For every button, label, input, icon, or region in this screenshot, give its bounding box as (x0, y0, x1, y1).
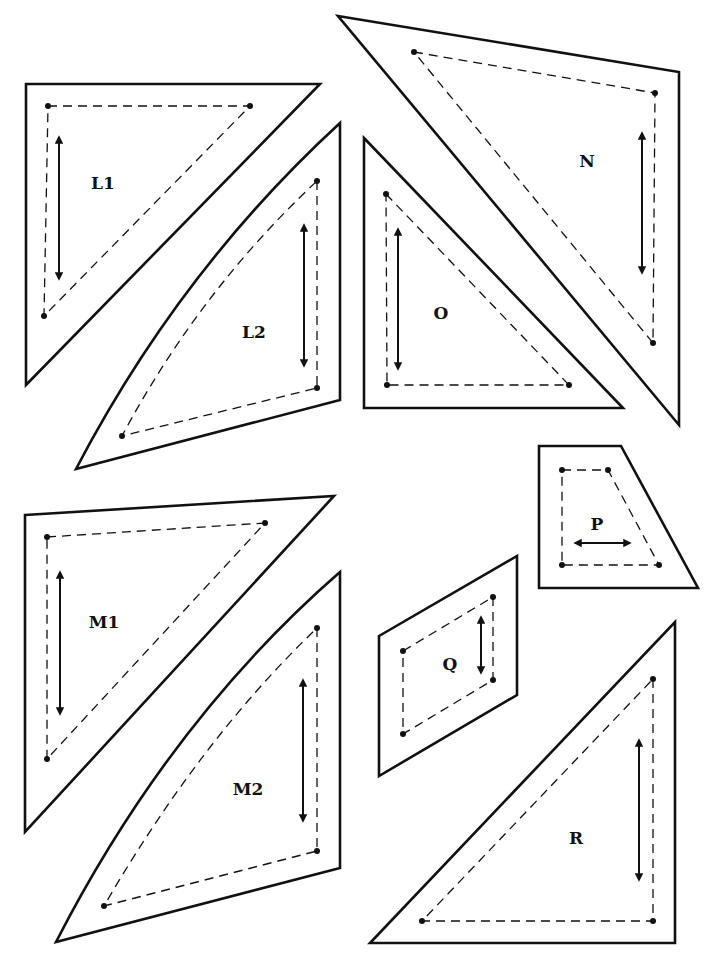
pattern-diagram: L1L2NOPQM1M2R (0, 0, 716, 960)
pattern-sheet: L1L2NOPQM1M2R (0, 0, 716, 960)
seam-corner-dot (41, 313, 47, 319)
piece-label: L2 (242, 322, 266, 342)
seam-corner-dot (559, 467, 565, 473)
seam-corner-dot (400, 648, 406, 654)
seam-corner-dot (490, 594, 496, 600)
seam-corner-dot (44, 534, 50, 540)
seam-corner-dot (652, 90, 658, 96)
pattern-piece-q[interactable]: Q (379, 556, 517, 776)
seam-corner-dot (314, 178, 320, 184)
seam-corner-dot (383, 191, 389, 197)
seam-corner-dot (314, 385, 320, 391)
seam-corner-dot (650, 918, 656, 924)
piece-label: N (579, 151, 595, 171)
seam-corner-dot (247, 103, 253, 109)
seam-corner-dot (44, 756, 50, 762)
piece-label: P (591, 514, 604, 534)
seam-corner-dot (314, 848, 320, 854)
seam-corner-dot (419, 918, 425, 924)
pattern-pieces: L1L2NOPQM1M2R (25, 16, 698, 943)
seam-corner-dot (650, 340, 656, 346)
piece-label: Q (443, 654, 458, 674)
seam-corner-dot (400, 731, 406, 737)
seam-corner-dot (605, 467, 611, 473)
seam-corner-dot (384, 382, 390, 388)
seam-corner-dot (650, 676, 656, 682)
seam-corner-dot (101, 903, 107, 909)
seam-corner-dot (566, 382, 572, 388)
seam-corner-dot (119, 433, 125, 439)
piece-label: M1 (89, 612, 120, 632)
seam-corner-dot (45, 103, 51, 109)
piece-label: M2 (233, 779, 264, 799)
seam-corner-dot (559, 562, 565, 568)
seam-corner-dot (411, 49, 417, 55)
piece-label: L1 (91, 173, 115, 193)
piece-label: O (434, 303, 449, 323)
seam-corner-dot (490, 677, 496, 683)
seam-corner-dot (262, 520, 268, 526)
seam-corner-dot (314, 625, 320, 631)
pattern-piece-p[interactable]: P (539, 446, 698, 588)
seam-corner-dot (656, 562, 662, 568)
piece-label: R (569, 828, 584, 848)
